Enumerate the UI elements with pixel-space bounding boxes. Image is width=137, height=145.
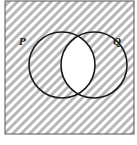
venn-diagram: P Q (0, 0, 137, 145)
set-q-label: Q (113, 37, 121, 47)
set-p-label: P (18, 37, 26, 47)
